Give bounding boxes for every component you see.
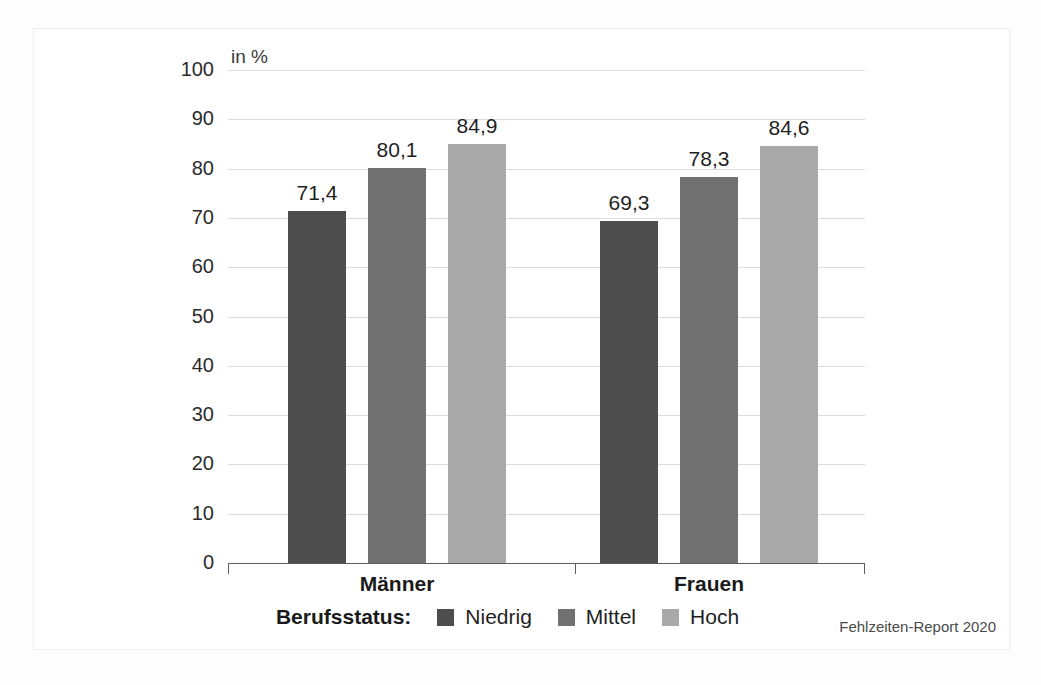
legend-label-mittel: Mittel: [586, 605, 636, 629]
bar-value-frauen-mittel: 78,3: [668, 147, 750, 171]
legend-label-hoch: Hoch: [690, 605, 739, 629]
bar-value-männer-niedrig: 71,4: [276, 181, 358, 205]
y-tick-label-70: 70: [156, 207, 214, 227]
source-note: Fehlzeiten-Report 2020: [839, 618, 996, 635]
bar-männer-niedrig[interactable]: [288, 211, 346, 563]
x-axis-line: [228, 563, 865, 564]
bar-männer-mittel[interactable]: [368, 168, 426, 563]
y-tick-label-20: 20: [156, 453, 214, 473]
y-tick-label-40: 40: [156, 355, 214, 375]
group-label-frauen: Frauen: [619, 572, 799, 596]
bar-frauen-hoch[interactable]: [760, 146, 818, 563]
legend-swatch-niedrig: [437, 609, 454, 626]
y-tick-label-80: 80: [156, 158, 214, 178]
legend-swatch-mittel: [558, 609, 575, 626]
y-tick-label-30: 30: [156, 404, 214, 424]
plot-area: 71,480,184,969,378,384,6: [228, 70, 865, 563]
legend-swatch-hoch: [662, 609, 679, 626]
legend-item-niedrig[interactable]: Niedrig: [437, 605, 532, 629]
bar-männer-hoch[interactable]: [448, 144, 506, 563]
legend-title: Berufsstatus:: [276, 605, 411, 629]
y-axis-title: in %: [231, 46, 268, 68]
y-tick-label-60: 60: [156, 256, 214, 276]
y-tick-label-100: 100: [156, 59, 214, 79]
legend-item-mittel[interactable]: Mittel: [558, 605, 636, 629]
x-axis-tick-right: [864, 563, 865, 574]
y-tick-label-10: 10: [156, 503, 214, 523]
legend-item-hoch[interactable]: Hoch: [662, 605, 739, 629]
bar-frauen-niedrig[interactable]: [600, 221, 658, 563]
chart-figure: in % 1009080706050403020100 71,480,184,9…: [0, 0, 1041, 685]
bar-value-frauen-niedrig: 69,3: [588, 191, 670, 215]
y-tick-label-0: 0: [156, 552, 214, 572]
group-label-männer: Männer: [307, 572, 487, 596]
legend-label-niedrig: Niedrig: [465, 605, 532, 629]
x-axis-tick-middle: [575, 563, 576, 574]
y-tick-label-90: 90: [156, 108, 214, 128]
x-axis-tick-left: [228, 563, 229, 574]
bar-frauen-mittel[interactable]: [680, 177, 738, 563]
bar-value-männer-mittel: 80,1: [356, 138, 438, 162]
bar-value-männer-hoch: 84,9: [436, 114, 518, 138]
y-tick-label-50: 50: [156, 306, 214, 326]
gridline-100: [228, 70, 865, 71]
bar-value-frauen-hoch: 84,6: [748, 116, 830, 140]
